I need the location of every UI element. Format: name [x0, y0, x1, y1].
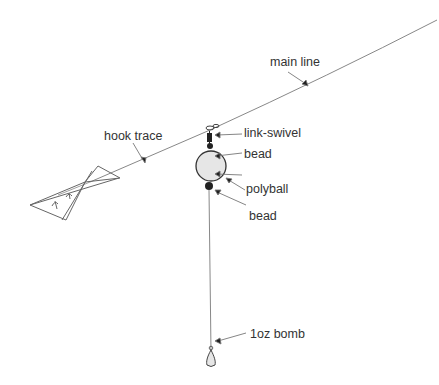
hook-icon: [30, 166, 120, 220]
bead-top-icon: [207, 143, 213, 149]
label-link-swivel: link-swivel: [244, 127, 301, 140]
rig-drawing: [0, 0, 439, 385]
bomb-line: [209, 190, 211, 352]
main-line: [210, 20, 437, 130]
bomb-icon: [207, 346, 216, 366]
label-hook-trace: hook trace: [104, 130, 162, 143]
bead-bottom-icon: [205, 182, 213, 190]
label-bead-bottom: bead: [249, 210, 277, 223]
label-bead-top: bead: [244, 148, 272, 161]
label-main-line: main line: [270, 56, 320, 69]
label-bomb: 1oz bomb: [250, 328, 305, 341]
fishing-rig-diagram: main line hook trace link-swivel bead po…: [0, 0, 439, 385]
label-polyball: polyball: [246, 183, 288, 196]
